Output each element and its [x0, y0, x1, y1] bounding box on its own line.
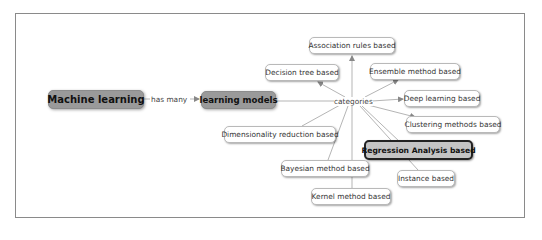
category-label: Dimensionality reduction based	[221, 130, 338, 139]
category-clustering-methods[interactable]: Clustering methods based	[406, 116, 500, 133]
category-label: Kernel method based	[312, 192, 391, 201]
category-ensemble-method[interactable]: Ensemble method based	[370, 63, 460, 80]
category-decision-tree[interactable]: Decision tree based	[265, 64, 339, 81]
category-label: Clustering methods based	[404, 120, 501, 129]
category-label: Ensemble method based	[369, 67, 461, 76]
category-label: Bayesian method based	[280, 164, 369, 173]
hub-node-label: learning models	[199, 95, 277, 105]
link-label-categories: categories	[334, 97, 373, 106]
category-label: Regression Analysis based	[361, 146, 475, 155]
link-label-has-many: has many	[151, 95, 187, 104]
category-label: Decision tree based	[265, 68, 338, 77]
category-bayesian-method[interactable]: Bayesian method based	[281, 160, 369, 177]
root-node-machine-learning[interactable]: Machine learning	[48, 90, 144, 109]
category-association-rules[interactable]: Association rules based	[309, 37, 395, 54]
category-label: Association rules based	[308, 41, 395, 50]
root-node-label: Machine learning	[47, 94, 144, 105]
category-deep-learning[interactable]: Deep learning based	[404, 90, 480, 107]
category-label: Instance based	[398, 174, 454, 183]
category-kernel-method[interactable]: Kernel method based	[311, 188, 391, 205]
hub-node-learning-models[interactable]: learning models	[201, 91, 276, 109]
category-label: Deep learning based	[404, 94, 481, 103]
category-dimensionality-reduction[interactable]: Dimensionality reduction based	[224, 126, 336, 143]
category-regression-analysis[interactable]: Regression Analysis based	[364, 140, 473, 160]
category-instance[interactable]: Instance based	[397, 170, 455, 187]
